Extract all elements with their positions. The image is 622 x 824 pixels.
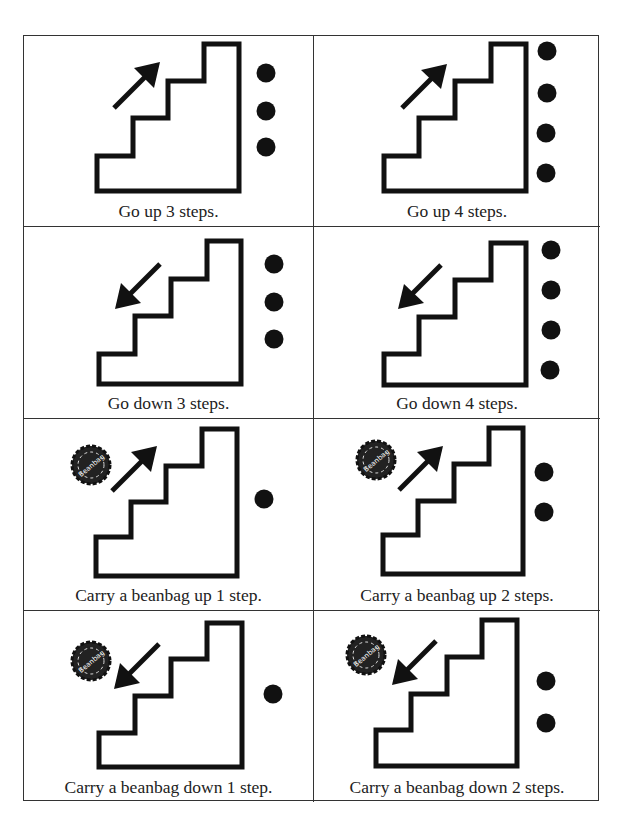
- beanbag-icon: Beanbag: [72, 446, 110, 484]
- card-caption: Carry a beanbag up 1 step.: [24, 585, 313, 606]
- card-caption: Go up 4 steps.: [314, 201, 600, 222]
- stairs-down-icon: [314, 227, 600, 419]
- stairs-down-icon: [24, 227, 314, 419]
- stairs-up-icon: [314, 36, 600, 227]
- card-carry-beanbag-up-1: Beanbag Carry a beanbag up 1 step.: [24, 419, 314, 611]
- arrow-down-left-icon: [398, 265, 441, 309]
- card-carry-beanbag-down-1: Beanbag Carry a beanbag down 1 step.: [24, 611, 314, 802]
- stairs-up-icon: Beanbag: [24, 419, 314, 611]
- step-count-dots: [535, 463, 554, 522]
- arrow-up-right-icon: [402, 64, 447, 108]
- arrow-up-right-icon: [399, 446, 443, 490]
- arrow-up-right-icon: [112, 446, 157, 491]
- beanbag-icon: Beanbag: [357, 441, 395, 479]
- beanbag-icon: Beanbag: [72, 642, 110, 680]
- step-count-dots: [257, 64, 276, 157]
- card-go-down-3: Go down 3 steps.: [24, 227, 314, 419]
- step-count-dots: [265, 255, 284, 349]
- card-caption: Go down 3 steps.: [24, 393, 313, 414]
- card-caption: Carry a beanbag down 2 steps.: [314, 777, 600, 798]
- card-caption: Carry a beanbag down 1 step.: [24, 777, 313, 798]
- card-caption: Carry a beanbag up 2 steps.: [314, 585, 600, 606]
- beanbag-icon: Beanbag: [347, 636, 385, 674]
- step-count-dots: [541, 241, 561, 380]
- step-count-dots: [255, 490, 274, 509]
- stairs-up-icon: Beanbag: [314, 419, 600, 611]
- arrow-up-right-icon: [114, 62, 160, 108]
- card-carry-beanbag-up-2: Beanbag Carry a beanbag up 2 steps.: [314, 419, 600, 611]
- step-count-dots: [537, 672, 556, 733]
- arrow-down-left-icon: [115, 264, 160, 309]
- step-count-dots: [537, 42, 557, 183]
- arrow-down-left-icon: [114, 644, 159, 689]
- card-caption: Go down 4 steps.: [314, 393, 600, 414]
- stairs-down-icon: Beanbag: [314, 611, 600, 802]
- card-go-down-4: Go down 4 steps.: [314, 227, 600, 419]
- card-go-up-4: Go up 4 steps.: [314, 36, 600, 227]
- stairs-up-icon: [24, 36, 314, 227]
- arrow-down-left-icon: [392, 641, 436, 685]
- card-carry-beanbag-down-2: Beanbag Carry a beanbag down 2 steps.: [314, 611, 600, 802]
- card-caption: Go up 3 steps.: [24, 201, 313, 222]
- card-grid: Go up 3 steps. Go up 4 steps.: [23, 35, 599, 801]
- stairs-down-icon: Beanbag: [24, 611, 314, 802]
- step-count-dots: [264, 685, 283, 704]
- card-go-up-3: Go up 3 steps.: [24, 36, 314, 227]
